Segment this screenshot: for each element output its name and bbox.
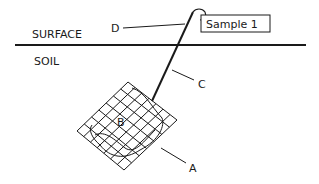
callout-d-leader xyxy=(123,24,185,28)
mesh-line xyxy=(117,115,170,165)
callout-a: A xyxy=(189,162,197,175)
callout-c: C xyxy=(198,78,206,91)
mesh-line xyxy=(104,104,156,154)
callout-d: D xyxy=(111,22,119,35)
soil-sampling-diagram: SURFACE SOIL Sample 1 D C B A xyxy=(0,0,319,184)
surface-label: SURFACE xyxy=(32,28,82,41)
callout-b: B xyxy=(117,116,125,129)
sample-label: Sample 1 xyxy=(206,18,258,31)
callout-a-leader xyxy=(161,148,186,163)
soil-label: SOIL xyxy=(34,55,60,68)
callout-c-leader xyxy=(172,70,194,80)
mesh-line xyxy=(84,87,135,136)
mesh-grid xyxy=(77,82,177,170)
